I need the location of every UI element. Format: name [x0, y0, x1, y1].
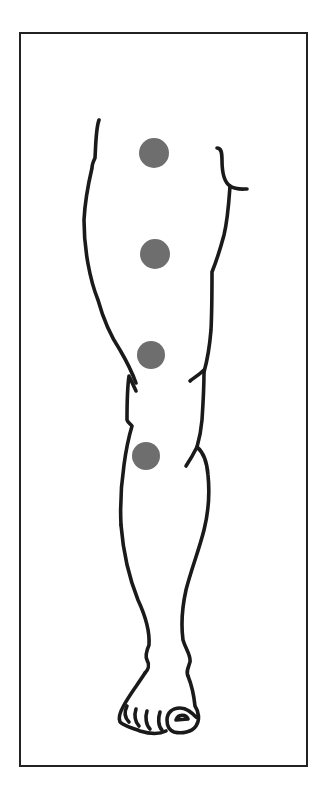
marker-dot — [132, 442, 160, 470]
left-knee-outline — [121, 376, 132, 525]
right-hip-outline — [217, 148, 247, 189]
leg-diagram — [0, 0, 324, 792]
big-toe-nail — [176, 715, 188, 720]
toe-5 — [125, 706, 129, 722]
right-foot-outline — [167, 676, 199, 733]
left-shin-outline — [121, 525, 149, 673]
toe-2 — [159, 712, 162, 730]
marker-dot — [140, 239, 170, 269]
marker-dot — [137, 341, 165, 369]
marker-dot — [139, 138, 169, 168]
toe-4 — [135, 709, 139, 726]
left-thigh-outline — [84, 120, 136, 383]
right-knee-notch — [190, 370, 204, 381]
toe-3 — [146, 711, 150, 729]
right-calf-outline — [182, 447, 209, 676]
right-thigh-outline — [204, 186, 230, 372]
